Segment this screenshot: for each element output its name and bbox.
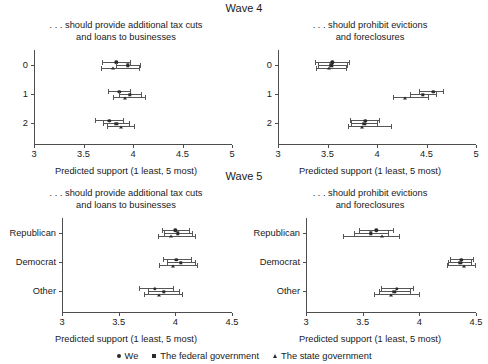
x-tick <box>328 145 329 148</box>
confidence-interval-cap <box>419 292 420 297</box>
confidence-interval-cap <box>393 228 394 233</box>
data-point-square <box>114 122 117 125</box>
y-tick-label: Democrat <box>2 257 56 267</box>
x-axis-label: Predicted support (1 least, 5 most) <box>248 334 488 344</box>
plot-area: 33.544.55012 <box>34 56 232 144</box>
data-point-circle <box>375 228 378 231</box>
plot-area: 33.544.5RepublicanDemocratOther <box>306 224 476 312</box>
confidence-interval-line <box>113 97 145 98</box>
x-tick-label: 3 <box>59 317 64 327</box>
confidence-interval-cap <box>159 263 160 268</box>
confidence-interval-cap <box>473 257 474 262</box>
panel-wave4-tax-cuts: . . . should provide additional tax cuts… <box>4 20 248 184</box>
data-point-square <box>176 231 179 234</box>
y-tick <box>275 123 278 124</box>
confidence-interval-cap <box>315 60 316 65</box>
confidence-interval-cap <box>139 66 140 71</box>
y-tick-label: Democrat <box>246 257 300 267</box>
x-axis-label: Predicted support (1 least, 5 most) <box>4 334 248 344</box>
confidence-interval-cap <box>163 257 164 262</box>
confidence-interval-cap <box>393 95 394 100</box>
y-tick <box>303 291 306 292</box>
confidence-interval-cap <box>475 263 476 268</box>
confidence-interval-cap <box>349 60 350 65</box>
y-tick <box>275 94 278 95</box>
legend-item: We <box>117 351 139 361</box>
confidence-interval-cap <box>113 95 114 100</box>
x-tick <box>62 313 63 316</box>
y-tick <box>303 262 306 263</box>
data-point-triangle <box>327 67 331 70</box>
panel-title: . . . should provide additional tax cuts… <box>4 188 248 211</box>
x-tick <box>363 313 364 316</box>
x-tick-label: 4.5 <box>176 149 189 159</box>
confidence-interval-line <box>101 68 139 69</box>
confidence-interval-cap <box>182 292 183 297</box>
x-tick-label: 4 <box>130 149 135 159</box>
x-tick <box>427 145 428 148</box>
confidence-interval-line <box>374 294 419 295</box>
y-tick <box>275 65 278 66</box>
x-tick-label: 5 <box>229 149 234 159</box>
confidence-interval-line <box>343 236 399 237</box>
confidence-interval-cap <box>379 118 380 123</box>
y-tick <box>31 65 34 66</box>
x-tick-label: 4.5 <box>420 149 433 159</box>
legend-label: We <box>125 351 139 361</box>
data-point-square <box>162 290 165 293</box>
confidence-interval-cap <box>197 263 198 268</box>
x-tick <box>175 313 176 316</box>
y-tick-label: Other <box>2 286 56 296</box>
confidence-interval-cap <box>102 60 103 65</box>
x-tick-label: 4 <box>417 317 422 327</box>
data-point-square <box>421 93 424 96</box>
x-tick <box>377 145 378 148</box>
y-tick <box>59 233 62 234</box>
square-marker-icon <box>152 354 156 358</box>
y-tick-label: 0 <box>4 60 28 70</box>
data-point-circle <box>108 119 111 122</box>
y-tick <box>31 123 34 124</box>
confidence-interval-cap <box>139 286 140 291</box>
y-tick <box>31 94 34 95</box>
confidence-interval-line <box>144 294 183 295</box>
x-tick <box>476 313 477 316</box>
y-axis-line <box>34 50 35 144</box>
x-tick <box>306 313 307 316</box>
confidence-interval-cap <box>399 234 400 239</box>
circle-marker-icon <box>117 354 121 358</box>
y-tick-label: 1 <box>4 89 28 99</box>
confidence-interval-cap <box>374 292 375 297</box>
confidence-interval-cap <box>413 286 414 291</box>
panel-wave5-evictions: . . . should prohibit evictions and fore… <box>248 188 488 352</box>
panel-title: . . . should prohibit evictions and fore… <box>248 20 488 43</box>
confidence-interval-cap <box>391 124 392 129</box>
data-point-triangle <box>157 293 161 296</box>
panel-title: . . . should provide additional tax cuts… <box>4 20 248 43</box>
data-point-square <box>179 261 182 264</box>
confidence-interval-cap <box>145 95 146 100</box>
confidence-interval-cap <box>195 234 196 239</box>
x-tick <box>183 145 184 148</box>
x-tick <box>232 145 233 148</box>
confidence-interval-cap <box>347 63 348 68</box>
data-point-triangle <box>171 264 175 267</box>
confidence-interval-cap <box>346 66 347 71</box>
confidence-interval-cap <box>447 263 448 268</box>
data-point-square <box>393 290 396 293</box>
x-tick-label: 3.5 <box>77 149 90 159</box>
x-tick-label: 3.5 <box>321 149 334 159</box>
data-point-square <box>369 231 372 234</box>
x-tick <box>133 145 134 148</box>
plot-area: 33.544.55012 <box>278 56 476 144</box>
y-tick-label: Republican <box>246 228 300 238</box>
data-point-triangle <box>403 96 407 99</box>
confidence-interval-cap <box>348 124 349 129</box>
y-axis-line <box>306 218 307 312</box>
panel-wave4-evictions: . . . should prohibit evictions and fore… <box>248 20 488 184</box>
y-tick-label: 2 <box>248 118 272 128</box>
confidence-interval-cap <box>443 89 444 94</box>
x-tick <box>419 313 420 316</box>
x-tick-label: 3 <box>275 149 280 159</box>
data-point-triangle <box>360 125 364 128</box>
